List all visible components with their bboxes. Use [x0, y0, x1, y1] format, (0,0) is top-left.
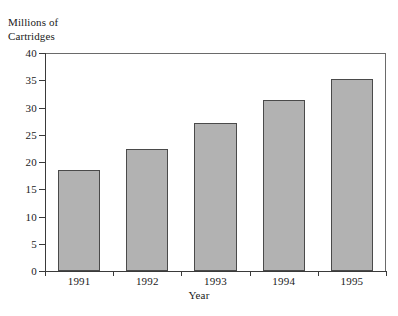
y-tick-label: 0	[0, 265, 37, 277]
x-tick	[318, 271, 319, 276]
y-tick-label: 25	[0, 129, 37, 141]
y-tick-label: 40	[0, 47, 37, 59]
x-tick-label-1995: 1995	[340, 275, 363, 287]
bars-layer	[45, 53, 386, 271]
x-tick-label-1994: 1994	[272, 275, 295, 287]
x-tick-label-1992: 1992	[136, 275, 159, 287]
y-tick-label: 20	[0, 156, 37, 168]
x-tick	[113, 271, 114, 276]
x-tick-label-1991: 1991	[68, 275, 91, 287]
bar-1992	[126, 149, 168, 271]
bar-1995	[331, 79, 373, 271]
y-tick-label: 15	[0, 183, 37, 195]
y-tick-label: 5	[0, 238, 37, 250]
x-tick	[250, 271, 251, 276]
x-tick-label-1993: 1993	[204, 275, 227, 287]
x-axis-caption: Year	[0, 289, 398, 301]
y-tick-label: 10	[0, 211, 37, 223]
x-tick	[45, 271, 46, 276]
x-tick	[386, 271, 387, 276]
x-tick	[181, 271, 182, 276]
bar-1994	[263, 100, 305, 271]
bar-1993	[194, 123, 236, 271]
y-tick-label: 30	[0, 102, 37, 114]
bar-1991	[58, 170, 100, 271]
y-tick-label: 35	[0, 74, 37, 86]
y-axis-caption: Millions of Cartridges	[8, 16, 58, 43]
x-axis-line	[45, 271, 386, 272]
